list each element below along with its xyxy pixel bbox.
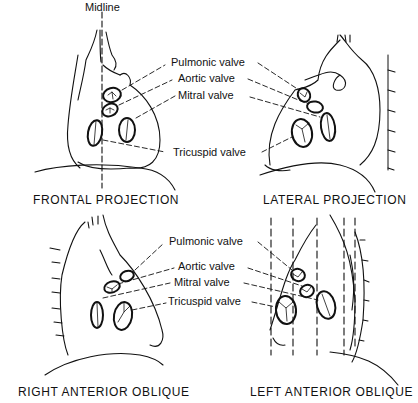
mitral-valve-label-top: Mitral valve bbox=[178, 90, 234, 101]
pulmonic-valve-label-bottom: Pulmonic valve bbox=[169, 236, 243, 247]
aortic-valve-rao bbox=[103, 279, 122, 295]
pulmonic-valve-label-top: Pulmonic valve bbox=[171, 57, 245, 68]
tricuspid-valve-rao bbox=[112, 301, 135, 332]
tricuspid-valve-label-top: Tricuspid valve bbox=[173, 147, 246, 158]
mitral-valve-label-bottom: Mitral valve bbox=[174, 277, 230, 288]
rao-heart bbox=[45, 215, 174, 375]
midline-label: Midline bbox=[85, 2, 120, 13]
lao-heart bbox=[244, 215, 398, 385]
aortic-valve-lateral bbox=[306, 100, 324, 114]
caption-lateral-projection: LATERAL PROJECTION bbox=[263, 194, 407, 206]
aortic-valve-label-bottom: Aortic valve bbox=[178, 261, 235, 272]
pulmonic-valve-lao bbox=[289, 267, 306, 283]
tricuspid-valve-lateral bbox=[290, 117, 315, 148]
caption-right-anterior-oblique: RIGHT ANTERIOR OBLIQUE bbox=[18, 386, 190, 398]
caption-frontal-projection: FRONTAL PROJECTION bbox=[33, 194, 179, 206]
aortic-valve-label-top: Aortic valve bbox=[178, 73, 235, 84]
frontal-heart bbox=[35, 12, 175, 190]
mitral-valve-lateral bbox=[319, 112, 337, 142]
pulmonic-valve-frontal bbox=[101, 86, 122, 104]
tricuspid-valve-label-bottom: Tricuspid valve bbox=[168, 296, 241, 307]
caption-left-anterior-oblique: LEFT ANTERIOR OBLIQUE bbox=[250, 386, 413, 398]
lateral-heart bbox=[248, 35, 395, 192]
